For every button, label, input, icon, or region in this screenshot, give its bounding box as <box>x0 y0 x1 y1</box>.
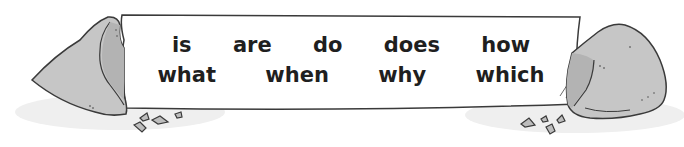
word-row-2: what when why which <box>122 60 580 90</box>
right-rock <box>567 24 667 118</box>
word: which <box>476 60 545 90</box>
word: do <box>313 30 342 60</box>
word: are <box>233 30 272 60</box>
word: why <box>378 60 426 90</box>
word: when <box>265 60 329 90</box>
word: is <box>172 30 192 60</box>
word-row-1: is are do does how <box>122 30 580 60</box>
word: does <box>384 30 440 60</box>
word: how <box>481 30 530 60</box>
word: what <box>157 60 216 90</box>
